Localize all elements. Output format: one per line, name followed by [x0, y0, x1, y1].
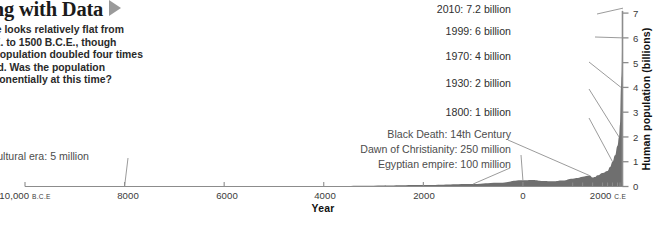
population-timeline-chart: 10,000 B.C.E 8000 6000 4000 2000 0 2000 … [0, 0, 655, 231]
annotation-1970: 1970: 4 billion [446, 50, 511, 62]
population-area-series [25, 8, 623, 186]
era-label: C.E [614, 193, 626, 200]
y-tick-label-0: 0 [633, 181, 638, 192]
y-axis-title: Human population (billions) [640, 28, 652, 171]
annotation-dawn-of-christianity: Dawn of Christianity: 250 million [360, 143, 511, 155]
leader-line-agricultural-era [125, 158, 128, 186]
leader-line-dawn-of-christianity [521, 155, 523, 180]
x-tick-label-2000ce: 2000 C.E [590, 190, 626, 201]
y-tick-label-7: 7 [633, 8, 638, 19]
annotation-2010: 2010: 7.2 billion [437, 3, 511, 15]
annotation-black-death: Black Death: 14th Century [387, 128, 511, 140]
y-axis-ticks [623, 13, 629, 186]
annotation-agricultural-era: Agricultural era: 5 million [0, 150, 89, 162]
annotation-leader-lines [125, 8, 623, 186]
y-tick-label-5: 5 [633, 57, 638, 68]
era-label: B.C.E [32, 193, 51, 200]
annotation-1930: 1930: 2 billion [446, 77, 511, 89]
annotation-egyptian-empire: Egyptian empire: 100 million [378, 158, 511, 170]
x-tick-label-6000: 6000 [216, 190, 238, 201]
annotation-1999: 1999: 6 billion [446, 25, 511, 37]
leader-line-egyptian-empire [473, 168, 510, 184]
y-tick-label-2: 2 [633, 131, 638, 142]
x-tick-label-4000: 4000 [314, 190, 336, 201]
x-axis-title: Year [312, 203, 335, 214]
y-tick-label-3: 3 [633, 106, 638, 117]
leader-line-year-1930 [589, 89, 619, 137]
y-tick-label-1: 1 [633, 156, 638, 167]
y-tick-label-4: 4 [633, 82, 638, 93]
figure-root: Working with Data This timeline looks re… [0, 0, 655, 231]
x-tick-label-8000: 8000 [117, 190, 139, 201]
x-tick-label-10000bce: 10,000 B.C.E [0, 190, 51, 201]
y-tick-label-6: 6 [633, 32, 638, 43]
leader-line-year-1800 [589, 118, 613, 162]
leader-line-year-2010 [597, 8, 623, 14]
annotation-1800: 1800: 1 billion [446, 106, 511, 118]
leader-line-year-1999 [595, 37, 622, 38]
leader-line-year-1970 [589, 62, 621, 87]
x-tick-label-2000bce: 2000 [413, 190, 435, 201]
x-tick-label-0: 0 [520, 190, 525, 201]
leader-line-black-death [508, 140, 590, 176]
